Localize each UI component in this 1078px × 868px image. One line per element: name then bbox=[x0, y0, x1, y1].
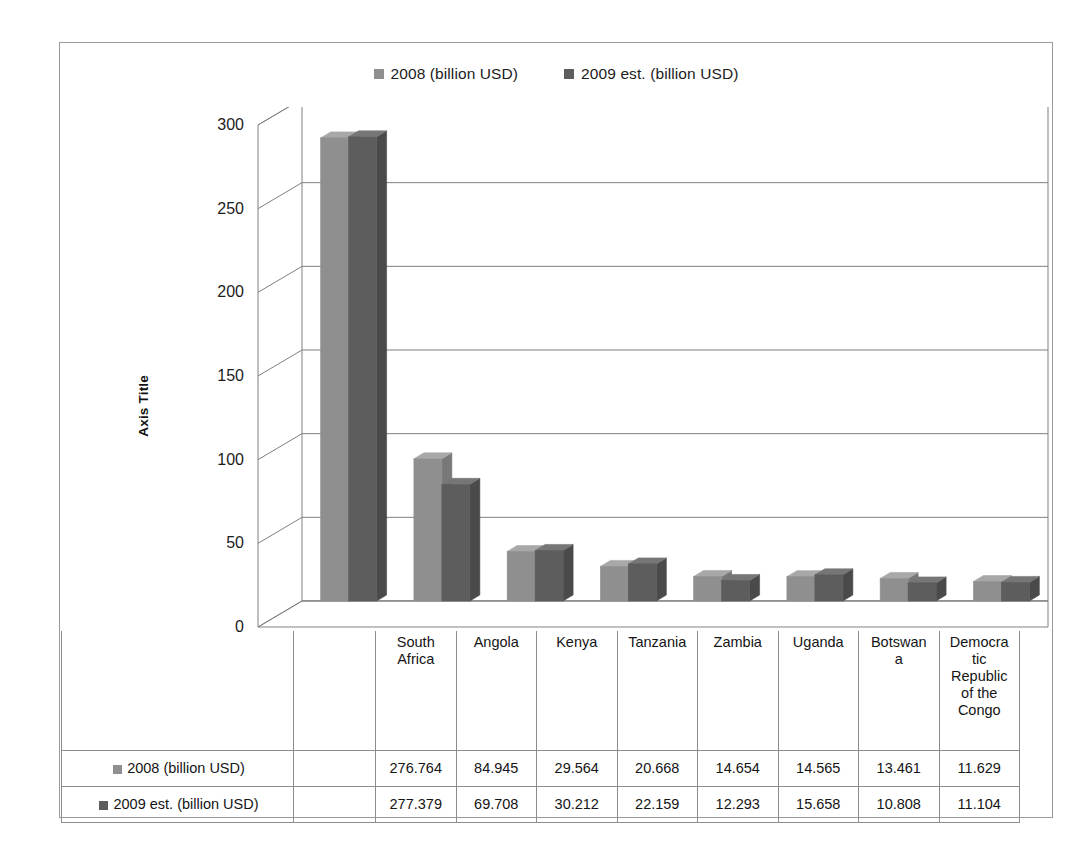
table-category-header-0: SouthAfrica bbox=[376, 631, 457, 751]
plot-area: 300250200150100500 bbox=[246, 107, 1054, 649]
legend-swatch-2009 bbox=[564, 69, 574, 79]
table-corner-cell bbox=[62, 631, 294, 751]
table-cell-1-1: 69.708 bbox=[456, 787, 537, 823]
table-series-label-1: 2009 est. (billion USD) bbox=[62, 787, 294, 823]
table-cell-0-4: 14.654 bbox=[698, 751, 779, 787]
bar-2009-2 bbox=[535, 544, 573, 601]
y-tick-label-300: 300 bbox=[217, 116, 244, 134]
table-cell-0-6: 13.461 bbox=[859, 751, 940, 787]
y-tick-label-100: 100 bbox=[217, 451, 244, 469]
table-category-header-4: Zambia bbox=[698, 631, 779, 751]
table-category-header-3: Tanzania bbox=[617, 631, 698, 751]
table-cell-1-3: 22.159 bbox=[617, 787, 698, 823]
table-row-series-0: 2008 (billion USD)276.76484.94529.56420.… bbox=[62, 751, 1020, 787]
table-row-series-1: 2009 est. (billion USD)277.37969.70830.2… bbox=[62, 787, 1020, 823]
table-blank-cell-0 bbox=[294, 751, 376, 787]
bar-2009-5 bbox=[815, 569, 853, 601]
y-tick-label-200: 200 bbox=[217, 283, 244, 301]
table-row-categories: SouthAfricaAngolaKenyaTanzaniaZambiaUgan… bbox=[62, 631, 1020, 751]
table-cell-1-2: 30.212 bbox=[537, 787, 618, 823]
table-cell-0-2: 29.564 bbox=[537, 751, 618, 787]
y-tick-label-150: 150 bbox=[217, 367, 244, 385]
legend-label-2009: 2009 est. (billion USD) bbox=[581, 65, 738, 83]
table-cell-1-7: 11.104 bbox=[939, 787, 1020, 823]
table-cell-0-7: 11.629 bbox=[939, 751, 1020, 787]
legend-label-2008: 2008 (billion USD) bbox=[391, 65, 519, 83]
plot-svg bbox=[246, 107, 1054, 649]
y-axis-title: Axis Title bbox=[136, 375, 151, 437]
bar-2009-7 bbox=[1001, 576, 1039, 601]
table-category-header-6: Botswana bbox=[859, 631, 940, 751]
table-series-swatch-0 bbox=[113, 765, 122, 774]
table-category-header-2: Kenya bbox=[537, 631, 618, 751]
table-category-header-1: Angola bbox=[456, 631, 537, 751]
chart-frame: 2008 (billion USD) 2009 est. (billion US… bbox=[59, 42, 1053, 818]
y-tick-label-250: 250 bbox=[217, 200, 244, 218]
bar-2009-6 bbox=[908, 577, 946, 601]
table-cell-0-3: 20.668 bbox=[617, 751, 698, 787]
table-cell-1-5: 15.658 bbox=[778, 787, 859, 823]
table-blank-cell-1 bbox=[294, 787, 376, 823]
chart-data-table: SouthAfricaAngolaKenyaTanzaniaZambiaUgan… bbox=[61, 631, 1020, 823]
table-cell-0-1: 84.945 bbox=[456, 751, 537, 787]
table-cell-1-0: 277.379 bbox=[376, 787, 457, 823]
table-cell-0-0: 276.764 bbox=[376, 751, 457, 787]
table-cell-1-4: 12.293 bbox=[698, 787, 779, 823]
y-tick-label-50: 50 bbox=[226, 534, 244, 552]
table-cell-1-6: 10.808 bbox=[859, 787, 940, 823]
table-series-swatch-1 bbox=[99, 801, 108, 810]
chart-legend: 2008 (billion USD) 2009 est. (billion US… bbox=[60, 65, 1052, 83]
legend-swatch-2008 bbox=[374, 69, 384, 79]
bar-2009-1 bbox=[442, 478, 480, 601]
legend-entry-2009[interactable]: 2009 est. (billion USD) bbox=[564, 65, 738, 83]
legend-entry-2008[interactable]: 2008 (billion USD) bbox=[374, 65, 519, 83]
table-cell-0-5: 14.565 bbox=[778, 751, 859, 787]
bar-2009-0 bbox=[349, 131, 387, 601]
table-blank-header-cell bbox=[294, 631, 376, 751]
bar-2009-3 bbox=[628, 558, 666, 601]
table-series-label-0: 2008 (billion USD) bbox=[62, 751, 294, 787]
bar-2009-4 bbox=[722, 574, 760, 601]
table-category-header-5: Uganda bbox=[778, 631, 859, 751]
table-category-header-7: DemocraticRepublicof theCongo bbox=[939, 631, 1020, 751]
